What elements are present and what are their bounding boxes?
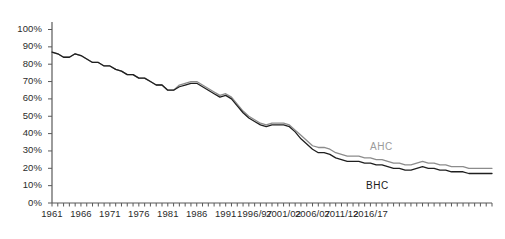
y-tick-label: 100%: [2, 24, 42, 34]
y-tick-label: 60%: [2, 93, 42, 103]
y-tick-label: 50%: [2, 111, 42, 121]
y-tick-label: 10%: [2, 180, 42, 190]
x-tick-label: 2016/17: [344, 209, 396, 219]
y-tick-label: 30%: [2, 145, 42, 155]
y-tick-label: 40%: [2, 128, 42, 138]
y-tick-label: 20%: [2, 163, 42, 173]
chart-plot-area: [0, 0, 505, 239]
chart-axes: [48, 22, 492, 207]
series-label-ahc: AHC: [370, 141, 393, 152]
series-line-bhc: [52, 52, 492, 173]
chart-series-group: [52, 52, 492, 173]
line-chart: 100%90%80%70%60%50%40%30%20%10%0% 196119…: [0, 0, 505, 239]
y-tick-label: 0%: [2, 198, 42, 208]
y-tick-label: 70%: [2, 76, 42, 86]
series-label-bhc: BHC: [366, 180, 389, 191]
y-tick-label: 80%: [2, 59, 42, 69]
y-tick-label: 90%: [2, 41, 42, 51]
